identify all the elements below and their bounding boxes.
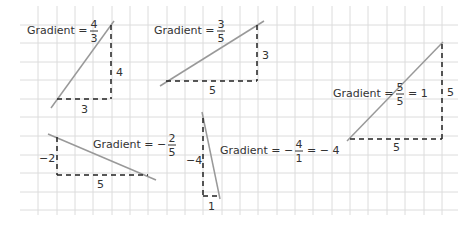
gradient-diagram: 43Gradient =4335Gradient =3555Gradient =… [0,0,474,229]
rise-label: −4 [186,154,202,167]
caption-prefix: Gradient = [333,87,394,100]
fraction-numerator: 2 [169,132,176,145]
triangle-gradient-3-5: 35Gradient =35 [154,18,269,97]
triangle-gradient-neg-2-5: −25Gradient =−25 [39,132,176,191]
caption-suffix: = − 4 [307,144,339,157]
gradient-caption: Gradient =35 [154,18,225,45]
rise-label: 5 [447,86,454,99]
gradient-caption: Gradient =−41= − 4 [220,138,339,165]
run-label: 1 [208,200,215,213]
fraction-numerator: 5 [397,81,404,94]
gradient-caption: Gradient =55= 1 [333,81,428,108]
fraction-numerator: 4 [91,18,98,31]
run-label: 3 [81,103,88,116]
rise-label: 3 [262,49,269,62]
fraction-denominator: 1 [296,152,303,165]
rise-label: −2 [39,152,55,165]
fraction-denominator: 5 [397,95,404,108]
run-label: 5 [209,84,216,97]
fraction-denominator: 5 [169,146,176,159]
caption-prefix: Gradient = [220,144,281,157]
run-label: 5 [393,141,400,154]
caption-sign: − [284,144,293,157]
caption-prefix: Gradient = [93,138,154,151]
triangle-gradient-5-5: 55Gradient =55= 1 [333,42,454,154]
rise-label: 4 [116,66,123,79]
triangle-gradient-neg-4: −41Gradient =−41= − 4 [186,112,339,213]
fraction-numerator: 4 [296,138,303,151]
caption-prefix: Gradient = [154,24,215,37]
fraction-denominator: 3 [91,32,98,45]
caption-suffix: = 1 [408,87,428,100]
run-label: 5 [97,178,104,191]
fraction-numerator: 3 [218,18,225,31]
caption-prefix: Gradient = [27,24,88,37]
caption-sign: − [157,138,166,151]
fraction-denominator: 5 [218,32,225,45]
